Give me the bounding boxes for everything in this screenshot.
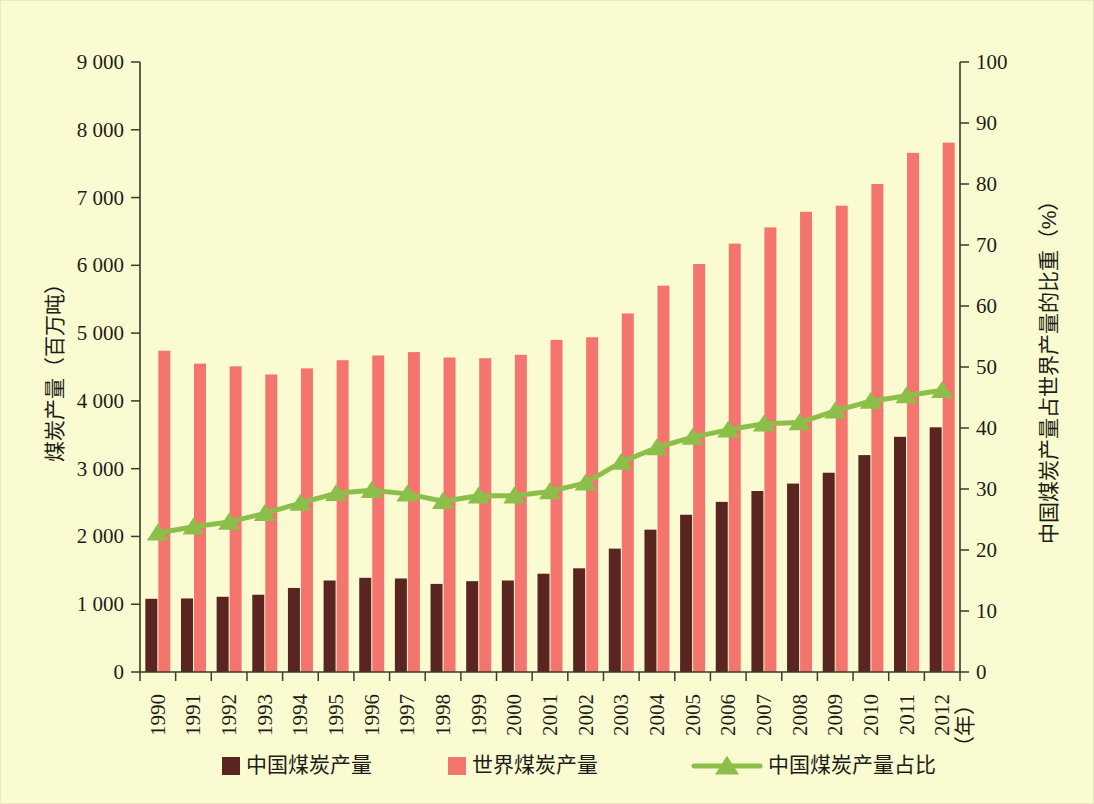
bar-world-production <box>907 153 919 672</box>
bar-world-production <box>444 358 456 672</box>
bar-china-production <box>787 484 799 672</box>
x-axis-tick-label: 1997 <box>395 694 419 736</box>
bar-world-production <box>943 143 955 672</box>
bar-world-production <box>836 206 848 672</box>
y2-axis-tick-label: 100 <box>976 50 1008 74</box>
x-axis-tick-label: 2012 <box>930 694 954 736</box>
chart-figure: 01 0002 0003 0004 0005 0006 0007 0008 00… <box>0 0 1094 804</box>
x-axis-tick-label: 1994 <box>288 694 312 737</box>
legend-label: 中国煤炭产量 <box>246 753 372 776</box>
bar-world-production <box>194 364 206 672</box>
bar-world-production <box>337 360 349 672</box>
y-axis-tick-label: 4 000 <box>77 389 124 413</box>
legend-group: 中国煤炭产量世界煤炭产量中国煤炭产量占比 <box>222 753 936 776</box>
y-axis-tick-label: 2 000 <box>77 524 124 548</box>
bar-world-production <box>657 286 669 672</box>
y-axis-tick-label: 6 000 <box>77 253 124 277</box>
y-axis-title: 煤炭产量（百万吨） <box>43 273 66 462</box>
x-axis-tick-label: 2003 <box>609 694 633 736</box>
y2-axis-tick-label: 80 <box>976 172 997 196</box>
bar-china-production <box>252 595 264 672</box>
bar-world-production <box>871 184 883 672</box>
y2-axis-tick-label: 20 <box>976 538 997 562</box>
bar-china-production <box>288 588 300 672</box>
bar-world-production <box>551 340 563 672</box>
coal-production-chart: 01 0002 0003 0004 0005 0006 0007 0008 00… <box>0 0 1094 804</box>
y2-axis-tick-label: 90 <box>976 111 997 135</box>
bar-china-production <box>538 574 550 672</box>
legend-swatch <box>222 757 240 775</box>
bar-china-production <box>894 437 906 672</box>
bar-world-production <box>729 244 741 672</box>
bar-world-production <box>586 337 598 672</box>
bar-world-production <box>479 358 491 672</box>
x-axis-tick-label: 2000 <box>502 694 526 736</box>
y-axis-tick-label: 7 000 <box>77 186 124 210</box>
y2-axis-title: 中国煤炭产量占世界产量的比重（%） <box>1037 190 1060 545</box>
bar-china-production <box>181 598 193 672</box>
legend-label: 世界煤炭产量 <box>472 753 598 776</box>
x-axis-tick-label: 1992 <box>217 694 241 736</box>
legend-swatch <box>448 757 466 775</box>
bar-world-production <box>372 355 384 672</box>
y2-axis-tick-label: 50 <box>976 355 997 379</box>
bar-china-production <box>751 491 763 672</box>
bar-world-production <box>800 212 812 672</box>
bar-world-production <box>265 374 277 672</box>
x-axis-tick-label: 2007 <box>752 694 776 736</box>
y-axis-tick-label: 0 <box>114 660 125 684</box>
bar-world-production <box>408 352 420 672</box>
y-axis-tick-label: 5 000 <box>77 321 124 345</box>
y2-axis-tick-label: 70 <box>976 233 997 257</box>
bar-world-production <box>158 351 170 672</box>
bar-china-production <box>930 427 942 672</box>
x-axis-tick-label: 1998 <box>431 694 455 736</box>
bar-china-production <box>644 530 656 672</box>
x-axis-tick-label: 1995 <box>324 694 348 736</box>
x-axis-tick-label: 1996 <box>360 694 384 736</box>
bar-world-production <box>622 313 634 672</box>
bar-china-production <box>716 502 728 672</box>
x-axis-tick-label: 1991 <box>181 694 205 736</box>
x-axis-tick-label: 1999 <box>467 694 491 736</box>
bar-china-production <box>217 597 229 672</box>
y2-axis-tick-label: 0 <box>976 660 987 684</box>
y-axis-tick-label: 9 000 <box>77 50 124 74</box>
x-axis-tick-label: 2004 <box>645 694 669 737</box>
legend-label: 中国煤炭产量占比 <box>768 753 936 776</box>
x-axis-title: （年） <box>953 694 977 757</box>
bar-china-production <box>680 515 692 672</box>
bar-china-production <box>858 455 870 672</box>
x-axis-tick-label: 1990 <box>146 694 170 736</box>
x-axis-tick-label: 2006 <box>716 694 740 736</box>
bar-china-production <box>609 549 621 672</box>
bar-china-production <box>359 578 371 672</box>
y2-axis-tick-label: 10 <box>976 599 997 623</box>
bar-world-production <box>764 227 776 672</box>
bar-world-production <box>693 264 705 672</box>
x-axis-tick-label: 2005 <box>681 694 705 736</box>
bar-china-production <box>573 568 585 672</box>
bar-china-production <box>145 599 157 672</box>
bar-china-production <box>395 578 407 672</box>
bar-china-production <box>324 581 336 673</box>
x-axis-tick-label: 2009 <box>823 694 847 736</box>
y-axis-tick-label: 8 000 <box>77 118 124 142</box>
bar-world-production <box>515 355 527 672</box>
bar-china-production <box>502 581 514 673</box>
x-axis-tick-label: 1993 <box>253 694 277 736</box>
x-axis-tick-label: 2010 <box>859 694 883 736</box>
y-axis-tick-label: 3 000 <box>77 457 124 481</box>
y2-axis-tick-label: 40 <box>976 416 997 440</box>
x-axis-tick-label: 2011 <box>895 694 919 735</box>
x-axis-tick-label: 2002 <box>574 694 598 736</box>
bar-world-production <box>301 368 313 672</box>
bar-china-production <box>466 581 478 672</box>
y2-axis-tick-label: 30 <box>976 477 997 501</box>
x-axis-tick-label: 2001 <box>538 694 562 736</box>
y2-axis-tick-label: 60 <box>976 294 997 318</box>
bar-china-production <box>823 473 835 672</box>
x-axis-tick-label: 2008 <box>788 694 812 736</box>
y-axis-tick-label: 1 000 <box>77 592 124 616</box>
bar-china-production <box>431 584 443 672</box>
